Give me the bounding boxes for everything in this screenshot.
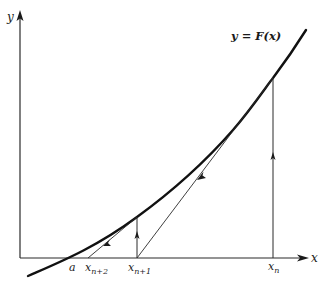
function-curve	[28, 30, 306, 276]
vertical-line-xn	[271, 78, 276, 258]
vertical-line-xn1	[135, 217, 140, 258]
tangent-line-1	[137, 78, 273, 258]
curve-label: y = F(x)	[230, 29, 281, 43]
xn1-label: xn+1	[128, 261, 151, 276]
tangent-line-2	[88, 217, 137, 258]
xn-label: xn	[268, 260, 279, 275]
xn2-label: xn+2	[85, 261, 108, 276]
y-axis-label: y	[6, 10, 14, 24]
root-label: a	[69, 261, 76, 274]
x-axis-label: x	[311, 251, 318, 265]
newton-method-diagram: y x y = F(x) a xn+2 xn+1 xn	[0, 0, 325, 289]
y-axis: y	[6, 10, 24, 258]
down-left-arrow-icon	[103, 240, 111, 247]
